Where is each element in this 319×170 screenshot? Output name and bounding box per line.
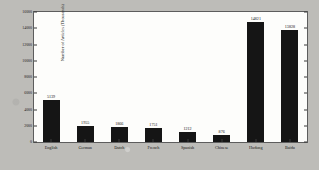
y-axis-tick-label: 10000: [22, 59, 32, 63]
bar-value-label: 1212: [183, 126, 191, 131]
x-axis-tick-label: German: [78, 145, 92, 150]
y-axis-tick-label: 12000: [22, 43, 32, 47]
figure-canvas: Number of Articles (Thousands) 020004000…: [0, 0, 319, 170]
bar-group: 5139English: [34, 12, 68, 142]
y-axis-tick-label: 14000: [22, 26, 32, 30]
x-axis-tick-mark: [255, 139, 256, 142]
y-axis-tick-label: 4000: [24, 108, 32, 112]
x-axis-tick-mark: [119, 139, 120, 142]
x-axis-tick-label: Baidu: [285, 145, 295, 150]
bar-value-label: 876: [219, 129, 225, 134]
bar: [247, 22, 264, 142]
bar: [43, 100, 60, 142]
x-axis-tick-label: English: [45, 145, 58, 150]
x-axis-tick-label: Spanish: [181, 145, 194, 150]
bar-value-label: 1866: [115, 121, 123, 126]
x-axis-tick-mark: [153, 139, 154, 142]
bar-group: 1955German: [68, 12, 102, 142]
bar-value-label: 13828: [285, 24, 295, 29]
x-axis-tick-label: Chinese: [215, 145, 229, 150]
y-axis-tick-label: 0: [30, 140, 32, 144]
bar: [281, 30, 298, 142]
bar-group: 1212Spanish: [171, 12, 205, 142]
x-axis-tick-mark: [289, 139, 290, 142]
y-axis-tick-label: 16000: [22, 10, 32, 14]
bar-group: 876Chinese: [205, 12, 239, 142]
x-axis-tick-label: Hudong: [249, 145, 263, 150]
bar-group: 1751French: [136, 12, 170, 142]
x-axis-tick-mark: [85, 139, 86, 142]
bar-group: 1866Dutch: [102, 12, 136, 142]
bar-value-label: 1955: [81, 120, 89, 125]
bar-group: 14821Hudong: [239, 12, 273, 142]
x-axis-tick-mark: [51, 139, 52, 142]
x-axis-tick-mark: [187, 139, 188, 142]
x-axis-tick-label: Dutch: [114, 145, 124, 150]
bar-value-label: 1751: [149, 122, 157, 127]
bar-value-label: 5139: [47, 94, 55, 99]
plot-area: Number of Articles (Thousands) 020004000…: [33, 11, 308, 143]
y-axis-tick-label: 2000: [24, 124, 32, 128]
bar-group: 13828Baidu: [273, 12, 307, 142]
y-axis-tick-label: 8000: [24, 75, 32, 79]
x-axis-tick-label: French: [148, 145, 160, 150]
x-axis-tick-mark: [221, 139, 222, 142]
bar-value-label: 14821: [251, 16, 261, 21]
bar-series: 5139English1955German1866Dutch1751French…: [34, 12, 307, 142]
y-axis-tick-label: 6000: [24, 91, 32, 95]
